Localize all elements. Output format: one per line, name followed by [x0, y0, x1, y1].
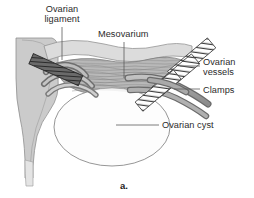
label-ovarian-ligament-line1: Ovarian	[46, 4, 79, 14]
label-ovarian-ligament-line2: ligament	[44, 14, 79, 24]
label-clamps: Clamps	[203, 85, 234, 95]
label-ovarian-vessels-line1: Ovarian	[203, 57, 236, 67]
label-ovarian-vessels: Ovarian vessels	[203, 57, 254, 78]
figure-caption: a.	[120, 180, 128, 191]
label-mesovarium: Mesovarium	[98, 29, 149, 39]
ovarian-cyst-surgery-figure: Ovarian ligament Mesovarium Ovarian vess…	[0, 0, 254, 198]
label-ovarian-cyst: Ovarian cyst	[162, 120, 214, 130]
label-ovarian-ligament: Ovarian ligament	[31, 4, 93, 25]
label-ovarian-vessels-line2: vessels	[203, 67, 234, 77]
